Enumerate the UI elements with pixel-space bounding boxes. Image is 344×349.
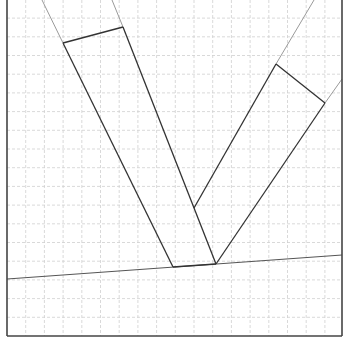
bar-edge bbox=[276, 64, 325, 103]
grid bbox=[7, 0, 342, 336]
extension-line bbox=[325, 79, 342, 103]
bar-edge bbox=[123, 27, 216, 264]
right-bar-shape bbox=[194, 0, 342, 264]
diagram-svg bbox=[0, 0, 344, 349]
bar-edge bbox=[63, 27, 123, 43]
diagram-canvas bbox=[0, 0, 344, 349]
bar-edge bbox=[173, 264, 216, 267]
left-bar-shape bbox=[42, 0, 216, 267]
bar-edge bbox=[216, 103, 325, 264]
extension-line bbox=[112, 0, 123, 27]
extension-line bbox=[276, 0, 314, 64]
